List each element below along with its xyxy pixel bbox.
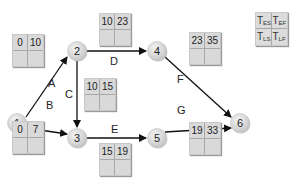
node-label: 2 [74, 45, 80, 57]
ls-value [85, 95, 100, 111]
legend-es: TES [256, 13, 272, 29]
lf-value [100, 95, 115, 111]
ls-value [13, 51, 28, 67]
ls-value [100, 30, 115, 46]
lf-value [28, 138, 43, 154]
lf-value [28, 51, 43, 67]
time-box-D: 10 23 [99, 13, 131, 46]
legend-lf: TLF [272, 29, 288, 45]
activity-label-C: C [65, 88, 73, 100]
ef-value: 15 [100, 79, 115, 95]
node-label: 5 [154, 132, 160, 144]
activity-label-G: G [177, 104, 186, 116]
ef-value: 35 [205, 33, 220, 49]
ef-value: 33 [205, 123, 220, 139]
time-box-A: 0 10 [12, 34, 44, 67]
activity-label-A: A [48, 77, 56, 89]
ef-value: 7 [28, 122, 43, 138]
es-value: 10 [85, 79, 100, 95]
time-box-C: 10 15 [84, 78, 116, 111]
es-value: 19 [190, 123, 205, 139]
activity-label-B: B [46, 99, 53, 111]
node-label: 6 [237, 117, 243, 129]
node-6: 6 [231, 114, 251, 134]
time-box-G: 19 33 [189, 122, 221, 155]
lf-value [205, 49, 220, 65]
activity-label-D: D [110, 55, 118, 67]
activity-label-E: E [111, 123, 118, 135]
ls-value [100, 160, 115, 176]
node-label: 4 [154, 45, 160, 57]
node-3: 3 [68, 129, 88, 149]
ef-value: 23 [115, 14, 130, 30]
arrow-F [165, 57, 231, 117]
legend-ef: TEF [272, 13, 288, 29]
activity-label-F: F [177, 73, 184, 85]
node-4: 4 [148, 42, 168, 62]
es-value: 15 [100, 144, 115, 160]
node-5: 5 [148, 129, 168, 149]
time-box-F: 23 35 [189, 32, 221, 65]
es-value: 0 [13, 122, 28, 138]
es-value: 10 [100, 14, 115, 30]
node-label: 3 [74, 132, 80, 144]
lf-value [115, 30, 130, 46]
ls-value [13, 138, 28, 154]
ef-value: 19 [115, 144, 130, 160]
lf-value [205, 139, 220, 155]
ls-value [190, 49, 205, 65]
time-box-B: 0 7 [12, 121, 44, 154]
lf-value [115, 160, 130, 176]
legend-box: TES TEF TLS TLF [255, 12, 288, 46]
ef-value: 10 [28, 35, 43, 51]
node-2: 2 [68, 42, 88, 62]
es-value: 0 [13, 35, 28, 51]
ls-value [190, 139, 205, 155]
legend-ls: TLS [256, 29, 272, 45]
es-value: 23 [190, 33, 205, 49]
time-box-E: 15 19 [99, 143, 131, 176]
